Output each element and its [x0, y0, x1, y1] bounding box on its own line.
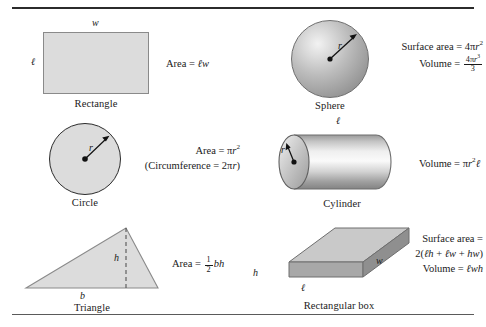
rectangle-caption: Rectangle	[43, 98, 149, 109]
plus-sign: +	[459, 248, 465, 259]
exponent-3: 3	[477, 53, 480, 59]
rectangle-label-length: ℓ	[31, 56, 35, 67]
sphere-formula: Surface area = 4πr2 Volume = 4πr3 3	[379, 38, 483, 74]
triangle-label-height: h	[114, 252, 119, 263]
sphere-caption: Sphere	[291, 100, 369, 111]
fraction-denominator: 2	[205, 266, 213, 275]
area-word: Area	[166, 58, 186, 69]
circle-radius-arrow	[49, 123, 123, 197]
volume-word: Volume	[419, 58, 451, 69]
figure-cylinder: ℓ r Cylinder Volume = πr2ℓ	[243, 112, 486, 212]
cylinder-shape	[276, 126, 408, 198]
bottom-rule	[12, 314, 474, 315]
formula-sheet-page: w ℓ Rectangle Area = ℓw r Sphere	[0, 0, 486, 327]
fraction-denominator: 3	[464, 65, 482, 74]
var-l: ℓ	[476, 157, 480, 169]
triangle-caption: Triangle	[22, 302, 162, 313]
equals-sign: =	[458, 263, 464, 274]
equals-sign: =	[477, 233, 483, 244]
volume-word: Volume	[419, 158, 451, 169]
close-paren: )	[237, 160, 241, 171]
equals-sign: =	[454, 158, 460, 169]
figure-triangle: h b Triangle Area = 1 2 bh	[0, 212, 243, 312]
circle-circumference-line: (Circumference = 2πr)	[128, 158, 240, 173]
triangle-label-base: b	[80, 290, 85, 301]
area-word: Area	[172, 258, 192, 269]
triangle-formula: Area = 1 2 bh	[172, 256, 224, 274]
cylinder-label-length: ℓ	[336, 115, 340, 126]
figure-circle: r Circle Area = πr2 (Circumference = 2πr…	[0, 112, 243, 212]
sphere-surface-area-line: Surface area = 4πr2	[379, 38, 483, 54]
box-caption: Rectangular box	[261, 300, 417, 311]
box-label-height: h	[253, 267, 258, 278]
area-word: Area	[195, 145, 215, 156]
top-rule	[12, 7, 474, 9]
cylinder-formula: Volume = πr2ℓ	[419, 155, 480, 171]
rectangle-label-width: w	[92, 17, 99, 28]
box-surface-area-label: Surface area =	[389, 231, 483, 246]
cylinder-caption: Cylinder	[276, 198, 408, 209]
rectangle-shape	[43, 32, 149, 94]
equals-sign: =	[213, 160, 219, 171]
equals-sign: =	[454, 58, 460, 69]
exponent-2: 2	[236, 143, 240, 151]
var-h: h	[428, 248, 433, 259]
plus-sign: +	[436, 248, 442, 259]
box-label-length: ℓ	[301, 282, 305, 293]
triangle-shape	[22, 224, 162, 296]
sphere-radius-arrow	[291, 20, 371, 100]
figure-rectangular-box: h ℓ w Rectangular box Surface area = 2(ℓ…	[243, 212, 486, 312]
sphere-volume-line: Volume = 4πr3 3	[379, 54, 483, 74]
surface-area-word: Surface area	[401, 41, 453, 52]
circle-caption: Circle	[49, 197, 121, 208]
figure-sphere: r Sphere Surface area = 4πr2 Volume = 4π…	[243, 12, 486, 112]
equals-sign: =	[189, 58, 195, 69]
circle-formula: Area = πr2 (Circumference = 2πr)	[128, 142, 240, 173]
cylinder-label-radius: r	[281, 144, 285, 155]
var-h: h	[478, 263, 483, 274]
sphere-label-radius: r	[338, 40, 342, 51]
equals-sign: =	[218, 145, 224, 156]
equals-sign: =	[456, 41, 462, 52]
rectangle-formula: Area = ℓw	[166, 56, 209, 71]
box-volume-line: Volume = ℓwh	[389, 261, 483, 276]
figure-rectangle: w ℓ Rectangle Area = ℓw	[0, 12, 243, 112]
var-w: w	[202, 58, 209, 69]
volume-word: Volume	[423, 263, 455, 274]
circumference-word: Circumference	[148, 160, 210, 171]
exponent-2: 2	[479, 39, 483, 47]
var-h: h	[219, 258, 224, 269]
box-formula: Surface area = 2(ℓh + ℓw + hw) Volume = …	[389, 231, 483, 277]
var-w: w	[472, 248, 479, 259]
surface-area-word: Surface area	[422, 233, 474, 244]
box-label-width: w	[376, 255, 383, 266]
circle-label-radius: r	[89, 142, 93, 153]
volume-fraction: 4πr3 3	[464, 54, 482, 74]
box-surface-area-expression: 2(ℓh + ℓw + hw)	[389, 246, 483, 261]
one-half-fraction: 1 2	[205, 256, 213, 274]
var-w: w	[471, 263, 478, 274]
circle-area-line: Area = πr2	[128, 142, 240, 158]
close-paren: )	[480, 248, 484, 259]
equals-sign: =	[195, 258, 201, 269]
var-w: w	[449, 248, 456, 259]
figure-grid: w ℓ Rectangle Area = ℓw r Sphere	[0, 12, 486, 312]
